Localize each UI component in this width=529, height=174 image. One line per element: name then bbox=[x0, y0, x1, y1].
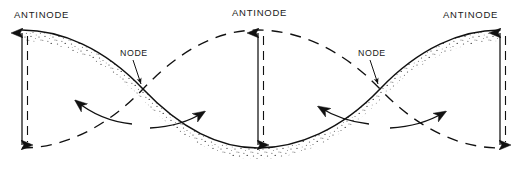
antinode-arrow-right bbox=[500, 33, 506, 145]
diagram-canvas bbox=[0, 0, 529, 174]
antinode-arrow-left bbox=[22, 33, 28, 145]
node-label-right: NODE bbox=[358, 49, 386, 58]
node-label-left: NODE bbox=[120, 49, 148, 58]
antinode-label-center: ANTINODE bbox=[232, 8, 287, 18]
wave-curve-dashed bbox=[22, 30, 500, 148]
standing-wave-diagram: ANTINODE ANTINODE ANTINODE NODE NODE bbox=[0, 0, 529, 174]
wave-curve-solid bbox=[22, 30, 500, 148]
motion-arrow-4 bbox=[390, 112, 445, 128]
node-pointer-right bbox=[370, 60, 378, 84]
motion-arrow-1 bbox=[76, 101, 132, 124]
antinode-label-right: ANTINODE bbox=[443, 10, 498, 20]
antinode-label-left: ANTINODE bbox=[14, 10, 69, 20]
antinode-arrow-center bbox=[258, 33, 264, 145]
